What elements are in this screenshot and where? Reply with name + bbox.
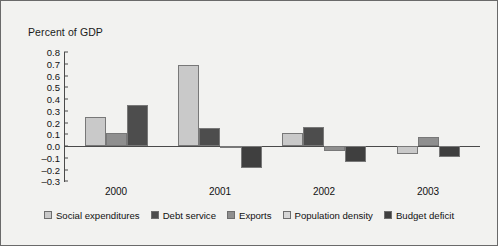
legend-label: Exports	[239, 210, 272, 221]
bar	[106, 133, 127, 146]
bar	[418, 137, 439, 146]
y-tick-label: 0.7	[47, 58, 60, 69]
y-tick-label: –0.1	[42, 152, 61, 163]
y-tick-label: 0.5	[47, 82, 60, 93]
y-tick-mark	[64, 52, 68, 53]
bar	[178, 65, 199, 146]
legend-label: Budget deficit	[396, 210, 454, 221]
y-tick-label: –0.2	[42, 164, 61, 175]
zero-baseline	[64, 146, 480, 147]
y-tick-label: 0.4	[47, 94, 60, 105]
y-tick-mark	[64, 63, 68, 64]
chart-legend: Social expendituresDebt serviceExportsPo…	[0, 203, 498, 227]
y-tick-mark	[64, 122, 68, 123]
bar	[127, 105, 148, 146]
legend-item: Population density	[283, 210, 373, 221]
y-tick-mark	[64, 181, 68, 182]
y-tick-mark	[64, 157, 68, 158]
y-tick-label: 0.2	[47, 117, 60, 128]
legend-label: Debt service	[163, 210, 216, 221]
chart-figure: Percent of GDP 0.80.70.60.50.40.30.20.10…	[0, 0, 498, 246]
y-tick-mark	[64, 75, 68, 76]
legend-swatch-icon	[227, 211, 235, 219]
x-axis-label: 2000	[105, 186, 127, 197]
x-axis-label: 2002	[313, 186, 335, 197]
bar	[282, 133, 303, 146]
legend-label: Social expenditures	[56, 210, 140, 221]
y-tick-label: 0.3	[47, 105, 60, 116]
y-axis-title: Percent of GDP	[28, 26, 103, 38]
bar	[324, 146, 345, 151]
y-tick-mark	[64, 99, 68, 100]
bar	[439, 146, 460, 157]
y-tick-label: 0.8	[47, 47, 60, 58]
legend-item: Budget deficit	[384, 210, 454, 221]
bar	[303, 127, 324, 146]
y-axis-line	[64, 52, 65, 182]
x-axis-label: 2003	[417, 186, 439, 197]
bar	[220, 146, 241, 148]
y-tick-mark	[64, 110, 68, 111]
y-tick-mark	[64, 146, 68, 147]
legend-swatch-icon	[151, 211, 159, 219]
bar	[397, 146, 418, 154]
bar	[241, 146, 262, 168]
bar	[345, 146, 366, 162]
legend-swatch-icon	[44, 211, 52, 219]
y-tick-mark	[64, 134, 68, 135]
y-tick-label: 0.0	[47, 141, 60, 152]
y-tick-label: 0.6	[47, 70, 60, 81]
bar	[199, 128, 220, 146]
legend-item: Exports	[227, 210, 272, 221]
legend-label: Population density	[295, 210, 373, 221]
legend-item: Social expenditures	[44, 210, 140, 221]
legend-swatch-icon	[283, 211, 291, 219]
y-tick-label: –0.3	[42, 176, 61, 187]
y-tick-label: 0.1	[47, 129, 60, 140]
x-axis-label: 2001	[209, 186, 231, 197]
y-tick-mark	[64, 169, 68, 170]
y-tick-mark	[64, 87, 68, 88]
bar	[85, 117, 106, 146]
legend-item: Debt service	[151, 210, 216, 221]
legend-swatch-icon	[384, 211, 392, 219]
